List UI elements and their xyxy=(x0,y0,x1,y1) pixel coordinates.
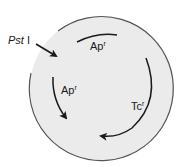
plasmid-diagram: Pst I Apr Apr Tcr xyxy=(0,0,182,167)
pst1-site-label: Pst I xyxy=(8,34,30,46)
